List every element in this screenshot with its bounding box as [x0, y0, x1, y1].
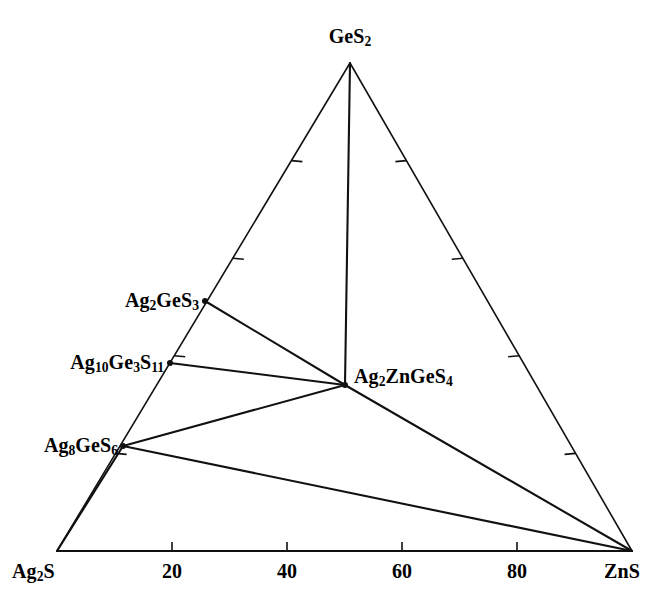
compound-label-ag2ges3: Ag2GeS3	[125, 290, 199, 313]
triangle-edge-right	[350, 63, 632, 551]
corner-label-ges2: GeS2	[329, 26, 372, 49]
tie-line-ag8ges6-ag2znges4	[123, 385, 345, 446]
ternary-diagram-canvas	[0, 0, 671, 612]
tick-right-60	[508, 356, 519, 357]
corner-label-ag2s: Ag2S	[12, 561, 55, 584]
tick-right-20	[395, 161, 406, 162]
axis-tick-label-60: 60	[392, 561, 412, 581]
tick-left-40	[174, 356, 185, 357]
tie-line-ag2ges3-ag2znges4	[205, 301, 345, 385]
compound-label-ag2znges4: Ag2ZnGeS4	[354, 366, 453, 389]
tie-line-ag8ges6-zns	[123, 446, 632, 551]
corner-label-zns: ZnS	[604, 561, 640, 581]
compound-node-ag2znges4	[342, 382, 348, 388]
triangle-edge-left	[57, 63, 350, 551]
compound-node-ag8ges6	[120, 443, 126, 449]
axis-tick-label-80: 80	[507, 561, 527, 581]
tick-right-40	[452, 258, 463, 259]
tie-line-ges2-ag2znges4	[345, 63, 350, 385]
tie-line-ag2znges4-zns	[345, 385, 632, 551]
axis-tick-label-20: 20	[162, 561, 182, 581]
ternary-phase-diagram: GeS2 Ag2S ZnS Ag2GeS3Ag10Ge3S11Ag8GeS6Ag…	[0, 0, 671, 612]
compound-label-ag10ge3s11: Ag10Ge3S11	[70, 352, 164, 375]
tick-left-60	[233, 258, 244, 259]
compound-node-ag10ge3s11	[167, 360, 173, 366]
compound-node-ag2ges3	[202, 298, 208, 304]
tick-left-80	[291, 161, 302, 162]
compound-label-ag8ges6: Ag8GeS6	[44, 435, 118, 458]
tick-right-80	[565, 453, 576, 454]
axis-tick-label-40: 40	[277, 561, 297, 581]
tie-line-ag10ge3s11-ag2znges4	[170, 363, 345, 385]
